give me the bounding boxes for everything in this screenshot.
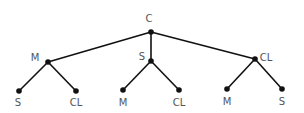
node-label-cl1_s: S	[279, 96, 285, 107]
node-label-s1: S	[139, 51, 145, 62]
edge-root-m1	[48, 32, 151, 62]
node-cl1_s	[279, 86, 285, 92]
edge-cl1-cl1_m	[227, 59, 255, 89]
tree-diagram: CMSCLSCLMCLMS	[0, 0, 304, 113]
node-label-s1_cl: CL	[173, 97, 186, 108]
node-label-root: C	[146, 13, 153, 24]
node-label-m1: M	[31, 52, 40, 63]
node-cl1	[252, 56, 258, 62]
node-root	[148, 29, 154, 35]
node-cl1_m	[224, 86, 230, 92]
edge-m1-m1_s	[19, 62, 48, 91]
node-label-cl1: CL	[260, 52, 273, 63]
edge-cl1-cl1_s	[255, 59, 282, 89]
node-s1	[148, 58, 154, 64]
edge-s1-s1_cl	[151, 61, 179, 90]
node-label-m1_cl: CL	[70, 97, 83, 108]
node-m1_cl	[73, 88, 79, 94]
node-s1_m	[120, 87, 126, 93]
node-label-m1_s: S	[15, 97, 21, 108]
node-label-s1_m: M	[119, 97, 128, 108]
edge-s1-s1_m	[123, 61, 151, 90]
node-label-cl1_m: M	[223, 96, 232, 107]
edge-root-cl1	[151, 32, 255, 59]
node-m1	[45, 59, 51, 65]
node-s1_cl	[176, 87, 182, 93]
node-m1_s	[16, 88, 22, 94]
edge-m1-m1_cl	[48, 62, 76, 91]
